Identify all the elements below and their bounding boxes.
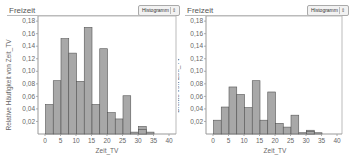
histogram-bar <box>92 105 100 134</box>
y-tick-label: 0,08 <box>22 80 35 87</box>
x-tick-label: 35 <box>318 137 326 144</box>
x-tick-label: 25 <box>119 137 127 144</box>
x-tick-label: 0 <box>211 137 215 144</box>
y-tick-label: 0,18 <box>190 17 203 24</box>
histogram-chart: 0,020,040,060,080,100,120,140,160,180510… <box>0 0 178 162</box>
histogram-bar <box>77 81 85 134</box>
y-axis-label: Relative Häufigkeit von Zeit_TV <box>5 39 13 131</box>
y-axis-label: Dichte von Zeit_TV <box>178 57 181 113</box>
x-tick-label: 10 <box>240 137 248 144</box>
y-tick-label: 0,18 <box>22 17 35 24</box>
y-tick-label: 0,02 <box>22 118 35 125</box>
histogram-bar <box>100 49 108 134</box>
x-tick-label: 25 <box>287 137 295 144</box>
y-tick-label: 0,14 <box>22 42 35 49</box>
histogram-bar <box>46 105 54 134</box>
y-tick-label: 0,12 <box>190 55 203 62</box>
histogram-bar <box>84 27 92 134</box>
y-tick-label: 0,04 <box>22 105 35 112</box>
y-tick-label: 0,06 <box>22 93 35 100</box>
histogram-bar <box>299 133 307 134</box>
y-tick-label: 0,04 <box>190 105 203 112</box>
y-tick-label: 0,10 <box>22 67 35 74</box>
histogram-bar <box>283 127 291 134</box>
y-tick-label: 0,02 <box>190 118 203 125</box>
histogram-bar <box>314 133 322 134</box>
y-tick-label: 0,10 <box>190 67 203 74</box>
x-tick-label: 20 <box>271 137 279 144</box>
histogram-bar <box>252 81 260 134</box>
x-tick-label: 0 <box>43 137 47 144</box>
histogram-bar <box>229 87 237 134</box>
x-tick-label: 15 <box>256 137 264 144</box>
histogram-bar <box>237 94 245 134</box>
histogram-bar <box>146 132 154 134</box>
x-tick-label: 40 <box>165 137 173 144</box>
x-tick-label: 30 <box>134 137 142 144</box>
histogram-bar <box>221 107 229 134</box>
x-tick-label: 20 <box>103 137 111 144</box>
histogram-bar <box>276 123 284 134</box>
histogram-bar <box>108 113 116 134</box>
histogram-panel-relative: Freizeit Histogramm ⇕ 0,020,040,060,080,… <box>0 0 178 162</box>
histogram-bar <box>214 120 222 134</box>
histogram-bar <box>69 53 77 134</box>
histogram-chart: 0,020,040,060,080,100,120,140,160,180510… <box>178 0 357 162</box>
histogram-bar <box>260 120 268 134</box>
x-axis-label: Zeit_TV <box>96 147 119 155</box>
histogram-bar <box>53 81 61 134</box>
histogram-bar <box>268 92 276 134</box>
histogram-panel-density: Freizeit Histogramm ⇕ 0,020,040,060,080,… <box>178 0 357 162</box>
x-tick-label: 30 <box>302 137 310 144</box>
x-tick-label: 5 <box>227 137 231 144</box>
y-tick-label: 0,16 <box>22 30 35 37</box>
y-tick-label: 0,08 <box>190 80 203 87</box>
histogram-bar <box>245 108 253 134</box>
y-tick-label: 0,14 <box>190 42 203 49</box>
histogram-bar <box>123 96 131 134</box>
x-axis-label: Zeit_TV <box>264 147 287 155</box>
y-tick-label: 0,12 <box>22 55 35 62</box>
histogram-bar <box>307 131 315 134</box>
histogram-bar <box>291 115 299 134</box>
x-tick-label: 5 <box>59 137 63 144</box>
x-tick-label: 40 <box>333 137 341 144</box>
histogram-bar <box>139 130 147 134</box>
y-tick-label: 0,16 <box>190 30 203 37</box>
x-tick-label: 15 <box>88 137 96 144</box>
x-tick-label: 10 <box>72 137 80 144</box>
histogram-bar <box>115 119 123 134</box>
histogram-bar <box>61 39 69 134</box>
y-tick-label: 0,06 <box>190 93 203 100</box>
x-tick-label: 35 <box>150 137 158 144</box>
histogram-bar <box>131 132 139 134</box>
